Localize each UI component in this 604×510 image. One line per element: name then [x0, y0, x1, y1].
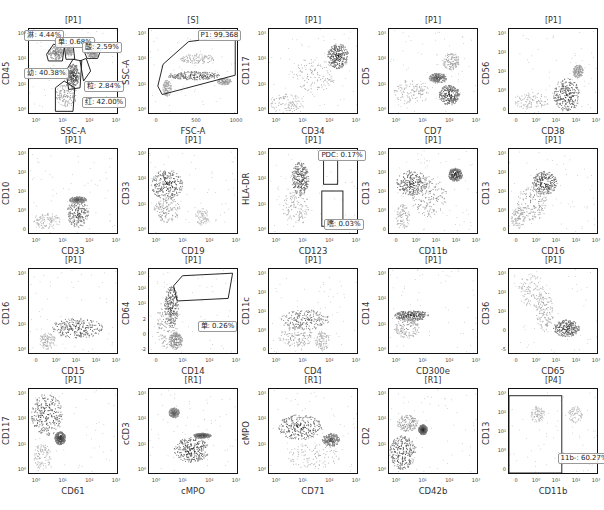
x-axis-label: cMPO: [148, 486, 238, 496]
y-tick-label: 10¹: [252, 441, 266, 447]
y-axis-label: CD2: [361, 427, 371, 445]
x-tick-label: 10¹: [295, 117, 311, 123]
y-tick-label: 10⁰: [12, 106, 26, 112]
y-tick-label: 10³: [12, 30, 26, 36]
y-tick-label: 10⁰: [132, 106, 146, 112]
y-tick-label: 10²: [372, 55, 386, 61]
y-tick-label: 10⁰: [252, 466, 266, 472]
x-tick-label: 10¹: [295, 357, 311, 363]
y-tick-label: 10⁰: [12, 346, 26, 352]
y-tick-label: 10¹: [12, 441, 26, 447]
y-tick-label: 10¹: [372, 188, 386, 194]
plot-area: [28, 268, 118, 354]
x-tick-label: 10¹: [548, 117, 564, 123]
x-axis-label: CD4: [268, 366, 358, 376]
y-tick-label: 10⁰: [12, 466, 26, 472]
x-tick-label: 10²: [81, 117, 97, 123]
plot-area: [388, 28, 478, 114]
x-axis-label: CD15: [28, 366, 118, 376]
x-tick-label: 10³: [108, 477, 124, 483]
x-tick-label: 10⁰: [148, 237, 164, 243]
y-tick-label: 10¹: [132, 441, 146, 447]
plot-area: [148, 268, 238, 354]
y-tick-label: 0: [492, 106, 506, 112]
x-tick-label: 10³: [108, 237, 124, 243]
panel-title: [S]: [148, 16, 238, 25]
plot-area: [148, 388, 238, 474]
x-axis-label: CD71: [268, 486, 358, 496]
x-tick-label: 10⁰: [28, 237, 44, 243]
plot-area: [28, 148, 118, 234]
x-tick-label: 10²: [568, 357, 584, 363]
y-tick-label: 10¹: [492, 428, 506, 434]
x-tick-label: 10¹: [415, 117, 431, 123]
x-tick-label: 10⁰: [268, 477, 284, 483]
x-tick-label: 10³: [588, 357, 604, 363]
x-tick-label: 10¹: [548, 477, 564, 483]
y-tick-label: 10³: [252, 150, 266, 156]
y-axis-label: CD13: [481, 422, 491, 445]
y-axis-label: CD64: [121, 302, 131, 325]
x-axis-label: CD7: [388, 126, 478, 136]
plot-area: [268, 28, 358, 114]
y-tick-label: 10¹: [12, 321, 26, 327]
x-axis-label: CD16: [508, 246, 598, 256]
y-tick-label: -5: [492, 346, 506, 352]
y-tick-label: 10⁰: [132, 466, 146, 472]
y-tick-label: 10²: [372, 295, 386, 301]
x-axis-label: CD61: [28, 486, 118, 496]
x-tick-label: 10¹: [295, 237, 311, 243]
y-tick-label: 0: [12, 226, 26, 232]
gate-label: 红: 42.00%: [82, 97, 126, 108]
x-tick-label: 10¹: [55, 117, 71, 123]
y-axis-label: cMPO: [241, 421, 251, 445]
plot-area: [508, 28, 598, 114]
gate-label: 嗜: 0.03%: [324, 219, 364, 230]
y-axis-label: SSC-A: [121, 60, 131, 85]
y-tick-label: 10³: [372, 150, 386, 156]
y-axis-label: CD11c: [241, 297, 251, 325]
y-tick-label: 10²: [132, 175, 146, 181]
gate-label: 幼: 40.38%: [24, 68, 68, 79]
panel-title: [P1]: [268, 136, 358, 145]
x-tick-label: 0: [148, 357, 164, 363]
x-axis-label: CD34: [268, 126, 358, 136]
panel-title: [P1]: [508, 256, 598, 265]
x-tick-label: 10¹: [548, 357, 564, 363]
x-tick-label: 1000: [228, 117, 244, 123]
x-tick-label: 10¹: [68, 357, 84, 363]
x-tick-label: 10²: [81, 477, 97, 483]
plot-area: [268, 268, 358, 354]
x-tick-label: 10¹: [55, 477, 71, 483]
y-tick-label: 10³: [132, 270, 146, 276]
x-axis-label: CD33: [28, 246, 118, 256]
x-tick-label: 10²: [568, 237, 584, 243]
panel-title: [R1]: [388, 376, 478, 385]
y-axis-label: CD14: [361, 302, 371, 325]
gate-label: 酸: 2.59%: [82, 42, 122, 53]
y-tick-label: 0: [252, 346, 266, 352]
y-tick-label: 10⁰: [372, 207, 386, 213]
y-tick-label: 10³: [252, 390, 266, 396]
gate-label: PDC: 0.17%: [318, 150, 365, 161]
x-axis-label: CD11b: [388, 246, 478, 256]
x-tick-label: 10³: [108, 357, 124, 363]
plot-area: [268, 388, 358, 474]
y-axis-label: CD13: [481, 182, 491, 205]
y-tick-label: 10⁰: [372, 346, 386, 352]
y-tick-label: 10⁰: [492, 207, 506, 213]
panel-title: [P1]: [388, 16, 478, 25]
x-tick-label: 10²: [321, 477, 337, 483]
y-axis-label: CD117: [241, 56, 251, 85]
y-axis-label: CD36: [481, 302, 491, 325]
x-tick-label: 0: [28, 357, 44, 363]
y-tick-label: 10¹: [492, 188, 506, 194]
x-tick-label: 0: [148, 117, 164, 123]
x-tick-label: 10²: [201, 357, 217, 363]
panel-title: [P1]: [508, 136, 598, 145]
y-tick-label: 10¹: [252, 201, 266, 207]
y-axis-label: CD33: [121, 182, 131, 205]
panel-title: [P1]: [388, 136, 478, 145]
x-tick-label: 10⁰: [388, 477, 404, 483]
x-tick-label: 0: [508, 237, 524, 243]
